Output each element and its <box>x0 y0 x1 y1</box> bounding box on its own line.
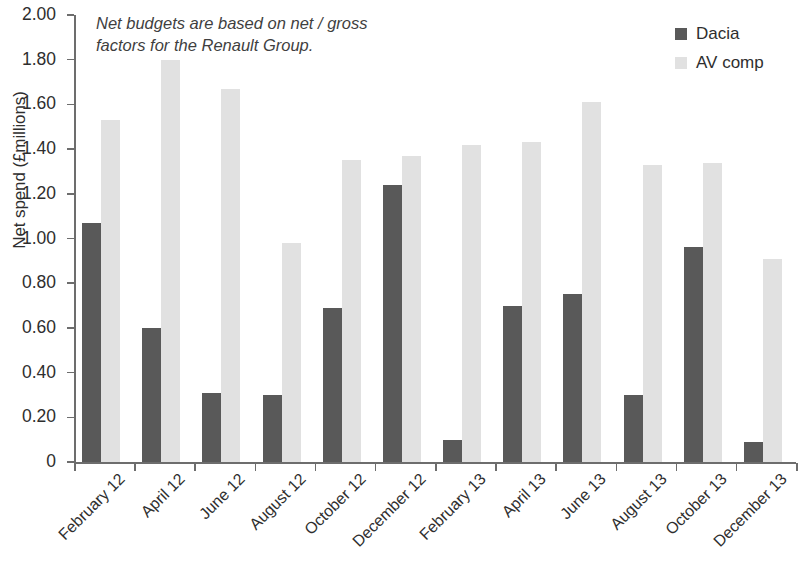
bar <box>643 165 662 462</box>
bar <box>142 328 161 462</box>
bar-group <box>134 15 194 462</box>
bar <box>402 156 421 462</box>
x-axis-tick-labels: February 12April 12June 12August 12Octob… <box>74 470 796 562</box>
bar <box>383 185 402 462</box>
x-axis-tick-mark <box>796 463 798 471</box>
bar <box>563 294 582 462</box>
x-axis-tick-label: April 13 <box>499 470 550 521</box>
legend-label: AV comp <box>696 53 764 73</box>
bar <box>161 60 180 462</box>
bar <box>703 163 722 462</box>
y-axis-tick-label: 1.40 <box>0 140 56 158</box>
bar-group <box>194 15 254 462</box>
y-axis-tick-label: 2.00 <box>0 6 56 24</box>
x-axis-tick-label: February 12 <box>55 470 129 544</box>
bar-group <box>435 15 495 462</box>
y-axis-tick-label: 0.20 <box>0 408 56 426</box>
plot-area <box>74 15 796 462</box>
bar-group <box>74 15 134 462</box>
y-axis-tick-label: 1.60 <box>0 95 56 113</box>
chart-legend: DaciaAV comp <box>675 24 795 82</box>
y-axis-tick-mark <box>67 148 74 150</box>
bar <box>221 89 240 462</box>
bar-group <box>495 15 555 462</box>
y-axis-tick-label: 1.00 <box>0 230 56 248</box>
bar <box>763 259 782 462</box>
bar <box>684 247 703 462</box>
bar-group <box>375 15 435 462</box>
y-axis-tick-label: 0.40 <box>0 364 56 382</box>
y-axis-tick-label: 0 <box>0 453 56 471</box>
bar-group <box>676 15 736 462</box>
bar-group <box>555 15 615 462</box>
bar <box>624 395 643 462</box>
bar-group <box>315 15 375 462</box>
bar-group <box>255 15 315 462</box>
legend-swatch-icon <box>675 57 687 69</box>
legend-item: Dacia <box>675 24 795 44</box>
bar <box>101 120 120 462</box>
bar-chart: Net spend (£millions) 2.001.801.601.401.… <box>0 0 803 562</box>
bar <box>282 243 301 462</box>
legend-label: Dacia <box>696 24 739 44</box>
x-axis-tick-label: August 13 <box>607 470 671 534</box>
x-axis-tick-label: June 13 <box>557 470 610 523</box>
bar <box>503 306 522 462</box>
chart-annotation: Net budgets are based on net / gross fac… <box>96 12 396 57</box>
y-axis-tick-label: 1.20 <box>0 185 56 203</box>
y-axis-tick-mark <box>67 282 74 284</box>
bar <box>443 440 462 462</box>
bar <box>462 145 481 462</box>
y-axis-tick-label: 0.80 <box>0 274 56 292</box>
y-axis-tick-label: 1.80 <box>0 51 56 69</box>
bar-group <box>616 15 676 462</box>
y-axis-tick-mark <box>67 14 74 16</box>
y-axis-tick-mark <box>67 104 74 106</box>
legend-swatch-icon <box>675 28 687 40</box>
y-axis-tick-label: 0.60 <box>0 319 56 337</box>
y-axis-tick-mark <box>67 417 74 419</box>
y-axis-tick-mark <box>67 193 74 195</box>
bar <box>744 442 763 462</box>
y-axis-tick-mark <box>67 327 74 329</box>
y-axis-tick-mark <box>67 238 74 240</box>
y-axis-tick-mark <box>67 461 74 463</box>
y-axis-tick-mark <box>67 59 74 61</box>
y-axis-tick-mark <box>67 372 74 374</box>
bar <box>522 142 541 462</box>
x-axis-tick-label: June 12 <box>196 470 249 523</box>
bar-group <box>736 15 796 462</box>
bar <box>202 393 221 462</box>
x-axis-tick-label: April 12 <box>138 470 189 521</box>
bar <box>582 102 601 462</box>
legend-item: AV comp <box>675 53 795 73</box>
bar <box>342 160 361 462</box>
bar <box>323 308 342 462</box>
x-axis-tick-label: August 12 <box>246 470 310 534</box>
y-axis-tick-labels: 2.001.801.601.401.201.000.800.600.400.20… <box>0 0 56 562</box>
bar <box>82 223 101 462</box>
bar <box>263 395 282 462</box>
